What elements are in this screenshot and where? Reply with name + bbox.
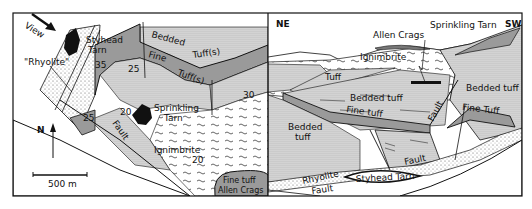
section-label-sprinkling-tarn: Sprinkling Tarn	[430, 20, 497, 30]
map-label-sprinkling: Sprinkling	[154, 103, 199, 113]
dip-value: 20	[192, 155, 204, 165]
sprinkling-tarn-section-shape	[411, 81, 441, 84]
map-panel	[13, 13, 268, 196]
map-label-styhead-tarn: Tarn	[87, 45, 107, 55]
dip-value: 35	[95, 60, 106, 70]
dip-value: 30	[243, 90, 255, 100]
map-label-allen-crags: Allen Crags	[218, 186, 263, 195]
map-label-fine-tuff: Fine tuff	[223, 176, 256, 185]
section-label-bedded-left: Bedded	[288, 122, 322, 132]
section-label-ignimbrite: Ignimbrite	[360, 52, 407, 62]
dip-value: 25	[128, 64, 139, 74]
map-label-rhyolite: "Rhyolite"	[24, 57, 69, 67]
scale-label: 500 m	[48, 179, 77, 189]
geology-figure: View N 500 m Styhead Tarn "Rhyolite" Bed…	[0, 0, 532, 209]
dip-value: 25	[83, 113, 94, 123]
dip-value: 20	[120, 107, 132, 117]
section-label-bedded-tuff-center: Bedded tuff	[350, 93, 403, 103]
section-ne-label: NE	[276, 19, 290, 29]
map-label-styhead: Styhead	[86, 35, 123, 45]
map-label-ignimbrite: Ignimbrite	[154, 145, 201, 155]
section-sw-label: SW	[505, 19, 521, 29]
north-label: N	[37, 125, 45, 135]
section-label-tuff: Tuff	[324, 72, 342, 82]
section-label-allen-crags: Allen Crags	[373, 30, 424, 40]
section-label-bedded-tuff-right: Bedded tuff	[466, 83, 519, 93]
map-label-sprinkling-tarn: Tarn	[163, 113, 183, 123]
section-label-tuff-left: tuff	[295, 132, 311, 142]
